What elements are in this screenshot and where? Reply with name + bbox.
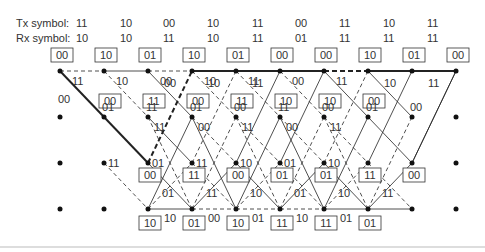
branch-label: 00: [292, 75, 304, 87]
trellis-node: [454, 207, 459, 212]
branch-label: 01: [252, 212, 264, 224]
branch-label: 11: [248, 75, 259, 87]
path-metric-label: 00: [276, 49, 288, 61]
trellis-node: [366, 115, 371, 120]
trellis-node: [410, 207, 415, 212]
branch-label: 11: [108, 157, 119, 169]
bottom-divider: [0, 246, 485, 248]
path-metric-label: 11: [364, 169, 375, 181]
path-metric-label: 00: [408, 169, 420, 181]
trellis-node: [410, 115, 415, 120]
trellis-node: [322, 115, 327, 120]
path-metric-label: 10: [188, 49, 200, 61]
branch-label: 00: [208, 212, 220, 224]
trellis-node: [234, 161, 239, 166]
path-metric-label: 01: [232, 49, 244, 61]
branch-label: 01: [366, 101, 378, 113]
trellis-node: [322, 207, 327, 212]
trellis-node: [278, 161, 283, 166]
branch-label: 10: [328, 157, 340, 169]
path-metric-label: 11: [320, 217, 331, 229]
branch-label: 11: [196, 157, 207, 169]
trellis-diagram: 0010011001000010010000110011101000001100…: [0, 0, 485, 252]
trellis-node: [366, 161, 371, 166]
branch-label: 01: [284, 157, 296, 169]
path-metric-label: 00: [56, 49, 68, 61]
branch-label: 10: [204, 75, 216, 87]
path-metric-label: 10: [364, 49, 376, 61]
branch-label: 10: [116, 75, 128, 87]
branch-label: 00: [160, 75, 172, 87]
trellis-node: [322, 161, 327, 166]
branch-label: 01: [152, 157, 164, 169]
branch-label: 10: [296, 212, 308, 224]
path-metric-label: 11: [276, 217, 287, 229]
branch-label: 01: [102, 101, 114, 113]
trellis-node: [234, 69, 239, 74]
trellis-node: [102, 115, 107, 120]
trellis-node: [410, 69, 415, 74]
branch-label: 11: [72, 75, 83, 87]
branch-label: 10: [250, 187, 262, 199]
branch-label: 11: [206, 187, 217, 199]
trellis-node: [278, 207, 283, 212]
branch-label: 00: [234, 101, 246, 113]
trellis-node: [146, 161, 151, 166]
trellis-node: [454, 115, 459, 120]
branch-label: 00: [410, 101, 422, 113]
branch-label: 10: [240, 157, 252, 169]
trellis-node: [146, 207, 151, 212]
trellis-node: [366, 207, 371, 212]
trellis-node: [102, 161, 107, 166]
trellis-node: [102, 69, 107, 74]
path-metric-label: 10: [144, 217, 156, 229]
trellis-node: [58, 69, 63, 74]
branch-01-10: [368, 117, 412, 163]
trellis-node: [146, 69, 151, 74]
trellis-node: [190, 115, 195, 120]
trellis-node: [58, 115, 63, 120]
path-metric-label: 00: [232, 169, 244, 181]
trellis-node: [146, 115, 151, 120]
trellis-node: [190, 207, 195, 212]
path-metric-label: 01: [276, 169, 288, 181]
branch-label: 11: [154, 121, 165, 133]
trellis-node: [190, 161, 195, 166]
trellis-node: [454, 161, 459, 166]
trellis-node: [58, 161, 63, 166]
trellis-node: [190, 69, 195, 74]
branch-label: 11: [242, 121, 253, 133]
branch-label: 00: [58, 93, 70, 105]
branch-label: 10: [164, 212, 176, 224]
branch-label: 01: [162, 187, 174, 199]
branch-label: 00: [286, 121, 298, 133]
path-metric-label: 10: [100, 49, 112, 61]
branch-label: 10: [338, 187, 350, 199]
trellis-node: [454, 69, 459, 74]
trellis-node: [102, 207, 107, 212]
path-metric-label: 11: [188, 169, 199, 181]
branch-label: 01: [294, 187, 306, 199]
path-metric-label: 01: [144, 49, 156, 61]
trellis-node: [234, 115, 239, 120]
branch-label: 11: [146, 101, 157, 113]
branch-label: 10: [384, 77, 396, 89]
path-metric-label: 00: [144, 169, 156, 181]
path-metric-label: 00: [452, 49, 464, 61]
trellis-node: [278, 69, 283, 74]
path-metric-label: 01: [320, 169, 332, 181]
branch-label: 00: [198, 121, 210, 133]
branch-label: 11: [278, 101, 289, 113]
branch-label: 11: [382, 187, 393, 199]
trellis-node: [234, 207, 239, 212]
path-metric-label: 10: [232, 217, 244, 229]
branch-label: 01: [190, 101, 202, 113]
branch-label: 01: [340, 212, 352, 224]
trellis-node: [278, 115, 283, 120]
trellis-node: [410, 161, 415, 166]
branch-label: 11: [336, 75, 347, 87]
path-metric-label: 01: [188, 217, 200, 229]
branch-label: 11: [330, 121, 341, 133]
trellis-node: [366, 69, 371, 74]
branch-label: 00: [322, 101, 334, 113]
